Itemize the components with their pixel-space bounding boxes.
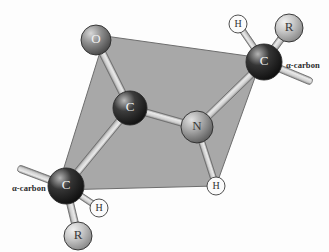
atom-label-hydrogen-left-alpha: H bbox=[95, 202, 102, 213]
atom-alpha-carbon-right: C bbox=[246, 44, 282, 80]
atom-nitrogen: N bbox=[181, 111, 213, 143]
atom-label-hydrogen-right-alpha: H bbox=[234, 18, 241, 29]
atom-hydrogen-left-alpha: H bbox=[90, 199, 108, 217]
atom-r-group-left: R bbox=[64, 222, 92, 250]
alpha-carbon-label-right: α-carbon bbox=[286, 60, 320, 70]
atom-alpha-carbon-left: C bbox=[48, 168, 84, 204]
atom-carbonyl-carbon: C bbox=[113, 91, 147, 125]
molecule-figure: OCNCCRR HHH α-carbon α-carbon bbox=[0, 0, 329, 252]
molecule-scene: OCNCCRR HHH bbox=[0, 0, 329, 252]
atom-hydrogen-amide: H bbox=[207, 177, 225, 195]
atom-label-hydrogen-amide: H bbox=[212, 180, 219, 191]
atom-hydrogen-right-alpha: H bbox=[229, 15, 247, 33]
alpha-carbon-label-left: α-carbon bbox=[12, 183, 46, 193]
atom-r-group-right: R bbox=[275, 14, 303, 42]
atom-oxygen: O bbox=[81, 25, 111, 55]
